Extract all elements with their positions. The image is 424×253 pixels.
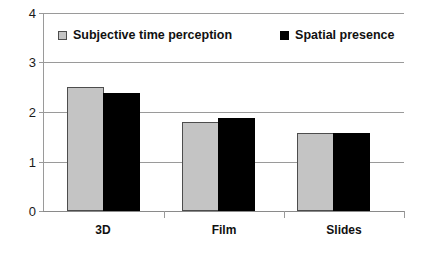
y-tick-label-2: 2 [16, 106, 36, 119]
bar-chart: 4 3 2 1 0 3D Film Slides [0, 0, 424, 253]
category-separator-2 [284, 211, 285, 218]
legend-label-spatial-presence: Spatial presence [295, 29, 394, 42]
category-separator-3 [404, 211, 405, 218]
bar-slides-spatial-presence [333, 133, 370, 211]
bar-3d-subjective-time-perception [67, 87, 104, 211]
y-tick-label-1: 1 [16, 156, 36, 169]
bar-film-spatial-presence [218, 118, 255, 211]
category-label-3d: 3D [63, 224, 143, 236]
category-separator-1 [164, 211, 165, 218]
bar-slides-subjective-time-perception [297, 133, 334, 211]
bar-film-subjective-time-perception [182, 122, 219, 211]
category-label-slides: Slides [304, 224, 384, 236]
y-tick-label-3: 3 [16, 56, 36, 69]
y-tick-label-0: 0 [16, 205, 36, 218]
legend-entry-spatial-presence: Spatial presence [280, 29, 394, 42]
y-tick-label-4: 4 [16, 7, 36, 20]
plot-area [43, 13, 404, 211]
gridline-3 [43, 62, 404, 63]
legend-label-subjective-time-perception: Subjective time perception [73, 29, 232, 42]
gridline-0-baseline [43, 211, 404, 212]
category-label-film: Film [184, 224, 264, 236]
bar-3d-spatial-presence [103, 93, 140, 211]
legend-entry-subjective-time-perception: Subjective time perception [58, 29, 232, 42]
gridline-4 [43, 13, 404, 14]
gray-square-marker-icon [58, 31, 67, 40]
y-axis-tick-labels: 4 3 2 1 0 [16, 0, 36, 253]
chart-legend: Subjective time perception Spatial prese… [58, 29, 394, 42]
black-square-marker-icon [280, 31, 289, 40]
